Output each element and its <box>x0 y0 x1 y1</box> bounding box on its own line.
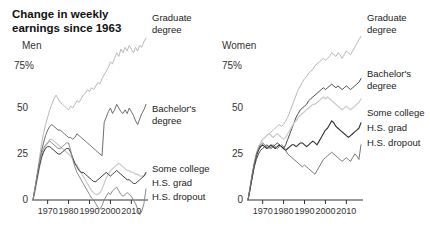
series-label-line: degree <box>152 115 196 127</box>
series-label: Bachelor'sdegree <box>152 103 196 126</box>
series-label-line: degree <box>152 24 192 36</box>
series-label-line: H.S. dropout <box>152 191 205 203</box>
series-line-graduate-degree <box>33 38 146 200</box>
series-label: Some college <box>152 163 210 175</box>
series-label-line: Bachelor's <box>152 103 196 115</box>
series-label-line: H.S. dropout <box>367 137 420 149</box>
series-label-line: Some college <box>152 163 210 175</box>
series-label: Bachelor'sdegree <box>367 68 411 91</box>
series-label-line: Some college <box>367 107 425 119</box>
y-axis-label: 25 <box>215 148 243 159</box>
series-label: H.S. grad <box>367 122 407 134</box>
y-axis-label: 0 <box>0 194 28 205</box>
x-axis-label: 2010 <box>332 206 360 216</box>
y-axis-label: 50 <box>215 102 243 113</box>
series-line-bachelor-s-degree <box>33 104 146 200</box>
series-line-h-s-dropout <box>248 143 361 200</box>
series-line-h-s-grad <box>248 121 361 200</box>
series-line-some-college <box>33 139 146 200</box>
panel-men: Men 75% 0255075% 19701980199020002010 Gr… <box>0 0 215 244</box>
series-label: H.S. grad <box>152 177 192 189</box>
series-line-h-s-grad <box>33 147 146 200</box>
series-label-line: H.S. grad <box>152 177 192 189</box>
series-label: Graduatedegree <box>152 12 192 35</box>
series-label: Graduatedegree <box>367 12 407 35</box>
y-axis-label: 0 <box>215 194 243 205</box>
series-line-some-college <box>248 97 361 200</box>
y-axis-label: 25 <box>0 148 28 159</box>
series-label-line: H.S. grad <box>367 122 407 134</box>
series-label-line: Bachelor's <box>367 68 411 80</box>
y-axis-label: 50 <box>0 102 28 113</box>
series-label-line: degree <box>367 80 411 92</box>
series-line-graduate-degree <box>248 36 361 200</box>
series-label-line: Graduate <box>152 12 192 24</box>
series-line-bachelor-s-degree <box>248 79 361 200</box>
series-label: H.S. dropout <box>152 191 205 203</box>
series-label: H.S. dropout <box>367 137 420 149</box>
series-label-line: degree <box>367 24 407 36</box>
series-label-line: Graduate <box>367 12 407 24</box>
series-label: Some college <box>367 107 425 119</box>
chart-root: Change in weekly earnings since 1963 Men… <box>0 0 430 244</box>
panel-women: Women 75% 0255075% 19701980199020002010 … <box>215 0 430 244</box>
x-axis-label: 2010 <box>117 206 145 216</box>
